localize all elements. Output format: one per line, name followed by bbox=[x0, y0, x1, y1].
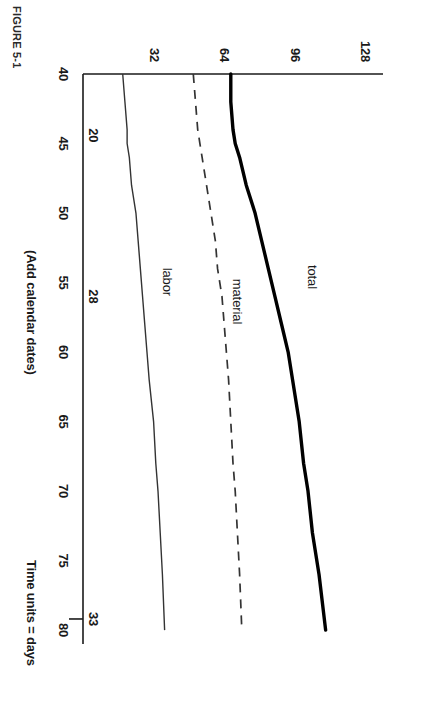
y-tick-label: 128 bbox=[358, 22, 373, 62]
series-line-material bbox=[193, 74, 242, 630]
figure-caption: FIGURE 5-1 bbox=[11, 6, 23, 69]
series-label-material: material bbox=[230, 279, 245, 324]
x-tick-label: 65 bbox=[56, 405, 71, 439]
series-label-labor: labor bbox=[160, 268, 175, 296]
series-line-labor bbox=[123, 74, 165, 630]
x-tick-label: 40 bbox=[56, 57, 71, 91]
figure-chart: 326496128 404550556065707580 202833 tota… bbox=[0, 0, 431, 715]
y-tick-label: 96 bbox=[287, 22, 302, 62]
x-tick-label-secondary: 33 bbox=[86, 602, 101, 636]
x-tick-label: 70 bbox=[56, 474, 71, 508]
series-label-total: total bbox=[305, 265, 320, 289]
x-tick-label: 55 bbox=[56, 266, 71, 300]
x-tick-label-secondary: 28 bbox=[86, 279, 101, 313]
rotated-page: 326496128 404550556065707580 202833 tota… bbox=[0, 0, 431, 715]
x-tick-label: 45 bbox=[56, 127, 71, 161]
x-tick-label: 80 bbox=[56, 613, 71, 647]
x-tick-label: 75 bbox=[56, 544, 71, 578]
y-tick-label: 32 bbox=[146, 22, 161, 62]
plot-area: 326496128 404550556065707580 202833 tota… bbox=[83, 74, 383, 644]
x-tick-label: 60 bbox=[56, 335, 71, 369]
x-axis-subtitle: (Add calendar dates) bbox=[24, 250, 39, 375]
curves-svg bbox=[83, 74, 383, 644]
x-tick-label-secondary: 20 bbox=[86, 118, 101, 152]
x-tick-label: 50 bbox=[56, 196, 71, 230]
x-axis-title: Time units = days bbox=[24, 560, 39, 666]
series-line-total bbox=[231, 74, 326, 630]
y-tick-label: 64 bbox=[217, 22, 232, 62]
